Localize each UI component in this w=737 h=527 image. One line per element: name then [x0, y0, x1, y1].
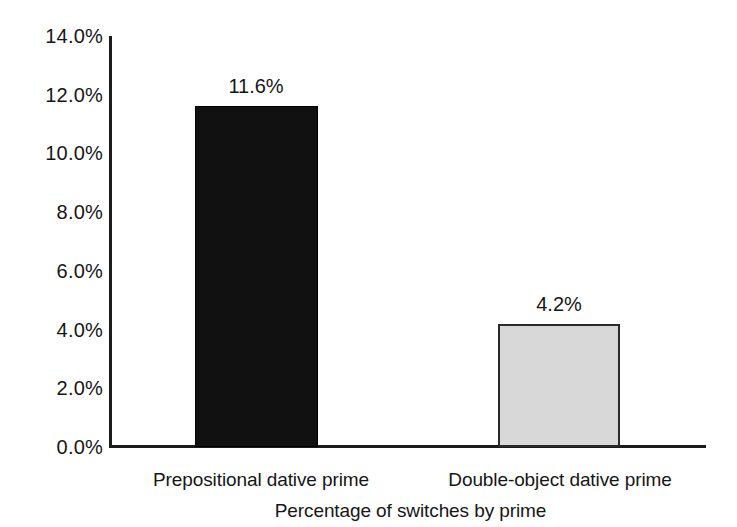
x-axis-title: Percentage of switches by prime [0, 500, 737, 522]
plot-area [110, 36, 705, 447]
y-tick-label: 2.0% [3, 377, 103, 400]
y-tick-label: 14.0% [3, 25, 103, 48]
bar-double-object-dative-prime [498, 324, 620, 447]
y-tick-label: 6.0% [3, 259, 103, 282]
bar-value-label: 4.2% [536, 293, 582, 316]
y-tick-label: 10.0% [3, 142, 103, 165]
bar-chart-figure: 14.0% 12.0% 10.0% 8.0% 6.0% 4.0% 2.0% 0.… [0, 0, 737, 527]
bar-prepositional-dative-prime [195, 106, 318, 447]
y-axis-tick-labels: 14.0% 12.0% 10.0% 8.0% 6.0% 4.0% 2.0% 0.… [0, 0, 103, 527]
x-axis-title-text: Percentage of switches by prime [275, 500, 546, 521]
category-label-prepositional: Prepositional dative prime [153, 469, 369, 491]
y-tick-label: 12.0% [3, 83, 103, 106]
bar-value-label: 11.6% [228, 75, 283, 98]
category-label-double-object: Double-object dative prime [448, 469, 671, 491]
y-tick-label: 8.0% [3, 201, 103, 224]
y-tick-label: 4.0% [3, 318, 103, 341]
y-tick-label: 0.0% [3, 436, 103, 459]
